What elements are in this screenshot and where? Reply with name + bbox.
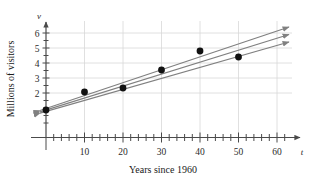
x-axis-variable-symbol: t	[301, 147, 304, 157]
x-tick-labels: 10 20 30 40 50 60	[80, 147, 282, 157]
data-point	[43, 107, 50, 114]
x-tick-label-20: 20	[118, 147, 128, 157]
y-axis-variable-symbol: v	[37, 11, 41, 21]
data-point	[81, 89, 88, 96]
x-tick-label-30: 30	[157, 147, 167, 157]
y-tick-label-3: 3	[35, 74, 40, 84]
data-point	[158, 67, 165, 74]
data-point	[120, 85, 127, 92]
y-tick-label-5: 5	[35, 44, 40, 54]
data-point	[197, 48, 204, 55]
y-tick-labels: 6 5 4 3 2	[35, 29, 40, 99]
scatter-plot-canvas: 6 5 4 3 2 10 20 30 40 50 60 v t Years si…	[0, 0, 315, 178]
x-tick-label-40: 40	[195, 147, 205, 157]
x-tick-label-60: 60	[272, 147, 282, 157]
axes	[31, 22, 300, 138]
grid-lines-horizontal	[46, 33, 292, 93]
data-point	[235, 54, 242, 61]
x-tick-label-10: 10	[80, 147, 90, 157]
y-tick-label-2: 2	[35, 89, 40, 99]
chart-figure: 6 5 4 3 2 10 20 30 40 50 60 v t Years si…	[0, 0, 315, 178]
trend-line-middle	[40, 35, 289, 112]
x-tick-label-50: 50	[234, 147, 244, 157]
y-axis-title: Millions of visitors	[5, 41, 16, 118]
y-tick-label-6: 6	[35, 29, 40, 39]
grid-lines-vertical	[85, 21, 278, 137]
y-tick-label-4: 4	[35, 59, 40, 69]
x-axis-title: Years since 1960	[129, 164, 197, 175]
